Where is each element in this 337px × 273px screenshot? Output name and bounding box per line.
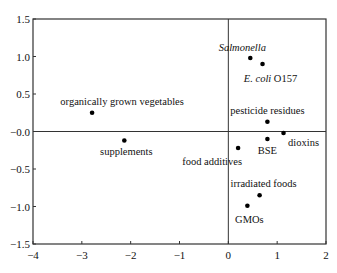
point-label: Salmonella <box>219 42 266 53</box>
point-label: dioxins <box>288 137 319 148</box>
point-label: GMOs <box>235 214 264 225</box>
x-tick-label: 2 <box>323 249 329 261</box>
point-marker <box>281 131 286 136</box>
data-point: GMOs <box>235 203 264 224</box>
x-tick-label: −1 <box>174 249 186 261</box>
data-point: organically grown vegetables <box>60 96 183 115</box>
point-label: pesticide residues <box>230 105 304 116</box>
data-point: dioxins <box>281 131 319 148</box>
data-point: irradiated foods <box>230 178 296 197</box>
point-label: BSE <box>258 145 277 156</box>
y-tick-label: 1.5 <box>16 13 30 25</box>
x-tick-label: −2 <box>125 249 137 261</box>
point-marker <box>248 56 253 61</box>
point-marker <box>265 137 270 142</box>
point-marker <box>236 146 241 151</box>
point-marker <box>260 62 265 67</box>
point-marker <box>122 138 127 143</box>
point-label: irradiated foods <box>230 178 296 189</box>
x-tick-label: 1 <box>274 249 280 261</box>
data-point: pesticide residues <box>230 105 304 124</box>
data-point: Salmonella <box>219 42 266 60</box>
y-tick-label: −1.0 <box>10 201 30 213</box>
point-label: food additives <box>182 156 242 167</box>
point-marker <box>257 193 262 198</box>
y-tick-label: −0.5 <box>10 163 30 175</box>
y-tick-label: −1.5 <box>10 238 30 250</box>
point-marker <box>90 110 95 115</box>
data-points: SalmonellaE. coli O157pesticide residues… <box>60 42 319 225</box>
y-axis: 1.51.00.5−0.0−0.5−1.0−1.5 <box>10 13 36 250</box>
point-marker <box>245 203 250 208</box>
point-label: supplements <box>100 146 153 157</box>
scatter-chart: −4−3−2−1012 1.51.00.5−0.0−0.5−1.0−1.5 Sa… <box>0 0 337 273</box>
y-tick-label: 1.0 <box>16 51 30 63</box>
x-tick-label: 0 <box>226 249 232 261</box>
data-point: food additives <box>182 146 242 167</box>
x-tick-label: −3 <box>76 249 88 261</box>
point-label: organically grown vegetables <box>60 96 183 107</box>
data-point: E. coli O157 <box>243 62 297 84</box>
x-tick-label: −4 <box>27 249 39 261</box>
y-tick-label: −0.0 <box>10 126 30 138</box>
data-point: supplements <box>100 138 153 156</box>
data-point: BSE <box>258 137 277 156</box>
point-marker <box>265 119 270 124</box>
point-label: E. coli O157 <box>243 73 297 84</box>
y-tick-label: 0.5 <box>16 88 30 100</box>
